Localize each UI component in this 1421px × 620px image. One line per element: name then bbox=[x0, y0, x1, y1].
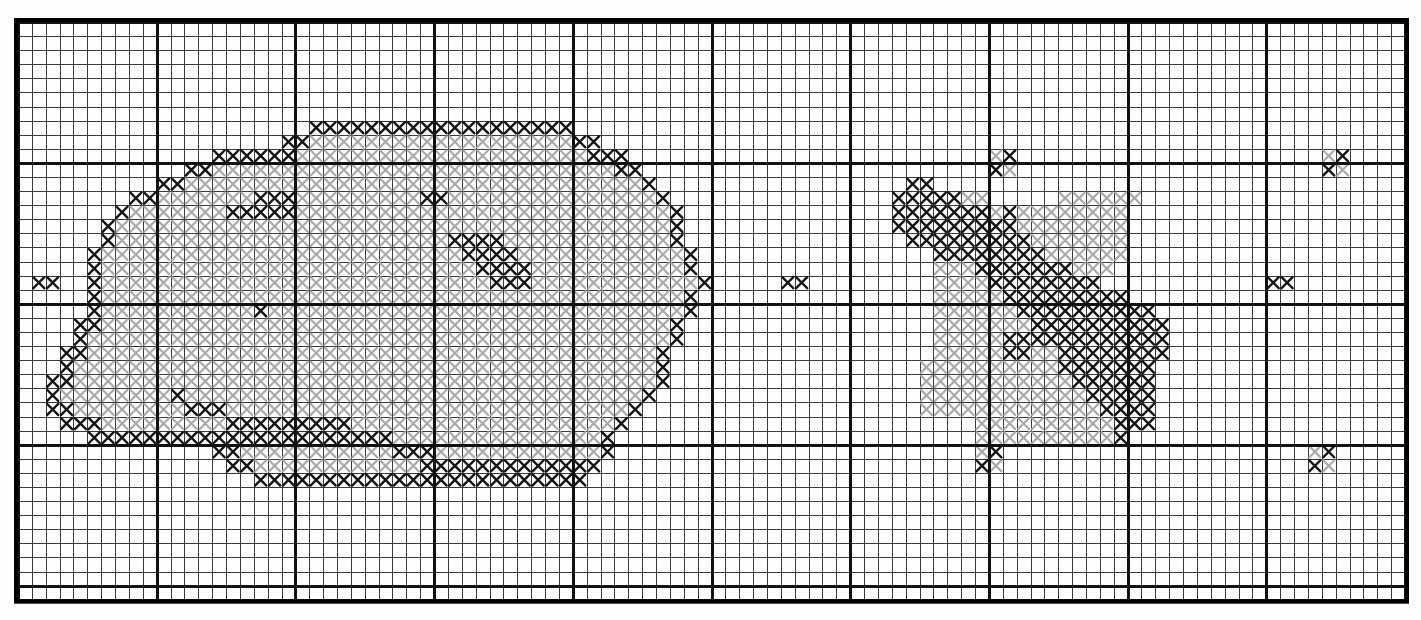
cross-stitch-chart bbox=[0, 0, 1421, 620]
pattern-grid-canvas bbox=[0, 0, 1421, 620]
